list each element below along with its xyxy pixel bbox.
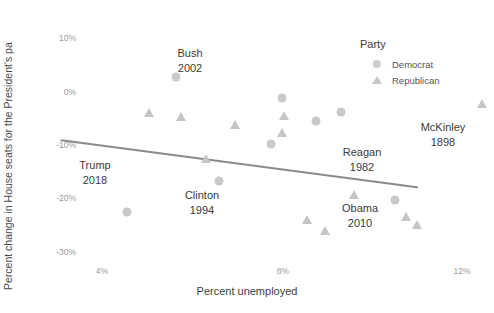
data-point-republican[interactable] — [144, 108, 154, 117]
annotation-year: 2010 — [342, 216, 378, 231]
annotation-year: 1982 — [343, 160, 382, 175]
scatter-chart: Percent change in House seats for the Pr… — [0, 0, 494, 313]
annotation-name: Obama — [342, 201, 378, 216]
data-point-republican[interactable] — [277, 128, 287, 137]
data-point-republican[interactable] — [477, 99, 487, 108]
annotation-year: 2002 — [177, 61, 202, 76]
data-point-republican[interactable] — [176, 112, 186, 121]
data-point-democrat[interactable] — [311, 117, 320, 126]
annotation-reagan: Reagan1982 — [343, 145, 382, 175]
annotation-name: Reagan — [343, 145, 382, 160]
triangle-marker-icon — [370, 76, 384, 84]
data-point-democrat[interactable] — [266, 140, 275, 149]
legend: Party Democrat Republican — [352, 38, 472, 88]
annotation-bush: Bush2002 — [177, 46, 202, 76]
circle-marker-icon — [370, 60, 384, 68]
annotation-trump: Trump2018 — [79, 158, 110, 188]
data-point-republican[interactable] — [201, 154, 211, 163]
data-point-republican[interactable] — [412, 220, 422, 229]
data-point-republican[interactable] — [401, 212, 411, 221]
annotation-obama: Obama2010 — [342, 201, 378, 231]
data-point-republican[interactable] — [279, 111, 289, 120]
annotation-clinton: Clinton1994 — [185, 188, 219, 218]
data-point-democrat[interactable] — [122, 207, 131, 216]
annotation-year: 1994 — [185, 203, 219, 218]
annotation-name: Bush — [177, 46, 202, 61]
annotation-year: 2018 — [79, 173, 110, 188]
annotation-name: Trump — [79, 158, 110, 173]
data-point-democrat[interactable] — [336, 108, 345, 117]
annotation-name: Clinton — [185, 188, 219, 203]
data-point-democrat[interactable] — [390, 195, 399, 204]
data-point-democrat[interactable] — [278, 93, 287, 102]
legend-title: Party — [360, 38, 472, 50]
annotation-year: 1898 — [421, 135, 466, 150]
data-point-democrat[interactable] — [215, 177, 224, 186]
legend-item-republican[interactable]: Republican — [370, 72, 472, 88]
legend-item-label: Democrat — [392, 59, 433, 70]
data-point-republican[interactable] — [349, 190, 359, 199]
data-point-republican[interactable] — [320, 226, 330, 235]
legend-item-label: Republican — [392, 75, 440, 86]
annotation-mckinley: McKinley1898 — [421, 120, 466, 150]
legend-item-democrat[interactable]: Democrat — [370, 56, 472, 72]
data-point-republican[interactable] — [230, 120, 240, 129]
data-point-republican[interactable] — [302, 215, 312, 224]
annotation-name: McKinley — [421, 120, 466, 135]
